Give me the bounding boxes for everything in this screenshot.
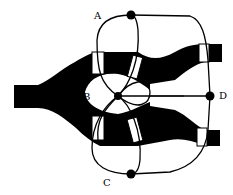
label-A: A [94, 11, 101, 21]
diagram-canvas [0, 0, 233, 195]
node-C [127, 170, 136, 179]
node-D [206, 92, 215, 101]
label-D: D [219, 91, 227, 101]
label-C: C [103, 178, 111, 188]
label-B: B [83, 92, 90, 102]
node-B [114, 92, 122, 100]
node-A [127, 11, 136, 20]
